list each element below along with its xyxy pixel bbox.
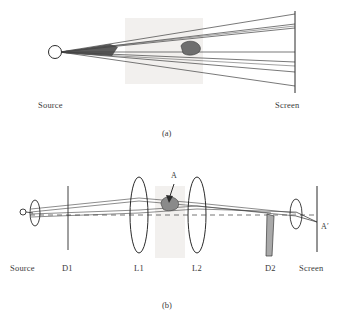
panel-b-beam-right — [197, 203, 296, 216]
panel-b-label-d2: D2 — [265, 263, 276, 273]
panel-a-source-circle — [49, 46, 62, 59]
panel-b-image-label: A′ — [321, 222, 329, 231]
panel-b-knife-edge-d2 — [266, 214, 274, 256]
panel-a-source-label: Source — [38, 100, 63, 110]
panel-b-label-screen: Screen — [299, 263, 323, 273]
panel-a-obstacle-blob — [181, 41, 200, 55]
panel-a-caption: (a) — [162, 128, 171, 138]
panel-b-caption: (b) — [162, 300, 172, 310]
optics-figure: Source Screen (a) A A′ Source D1 L1 L2 D… — [0, 0, 339, 321]
panel-b-source-point — [20, 209, 26, 215]
panel-b-beam-left — [31, 198, 139, 217]
panel-a-screen-label: Screen — [275, 100, 299, 110]
panel-b-beam-to-screen — [296, 212, 317, 222]
panel-b-object-label: A — [171, 171, 177, 180]
panel-b-label-d1: D1 — [62, 263, 73, 273]
panel-a-group — [49, 11, 296, 93]
panel-b-label-source: Source — [10, 263, 35, 273]
figure-canvas — [0, 0, 339, 321]
panel-b-label-l2: L2 — [192, 263, 202, 273]
panel-b-label-l1: L1 — [134, 263, 144, 273]
panel-b-group — [20, 177, 317, 258]
